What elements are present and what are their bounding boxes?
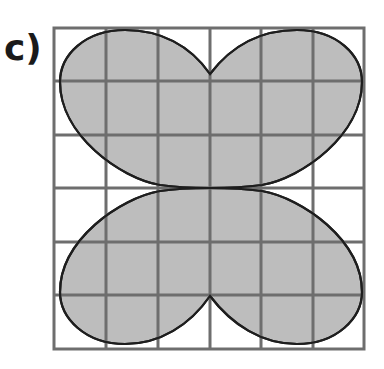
grid-figure — [0, 0, 384, 369]
